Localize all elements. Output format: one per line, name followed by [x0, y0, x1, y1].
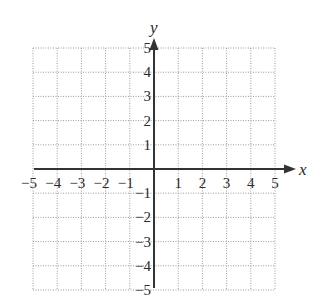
- y-tick-label: 2: [144, 113, 152, 129]
- y-tick-label: −4: [135, 258, 151, 274]
- x-tick-label: −2: [94, 175, 110, 191]
- x-tick-label: 2: [199, 175, 207, 191]
- x-axis-arrow-icon: [284, 165, 296, 174]
- x-tick-label: −1: [118, 175, 134, 191]
- axes: [34, 38, 296, 288]
- y-tick-label: 4: [144, 64, 152, 80]
- x-tick-label: −5: [21, 175, 37, 191]
- y-tick-label: −5: [135, 282, 151, 298]
- x-tick-label: 5: [271, 175, 279, 191]
- y-tick-label: 1: [144, 137, 152, 153]
- x-tick-label: 1: [174, 175, 182, 191]
- x-tick-label: 3: [223, 175, 231, 191]
- y-tick-label: 5: [144, 40, 152, 56]
- x-tick-label: 4: [247, 175, 255, 191]
- y-tick-label: −1: [135, 185, 151, 201]
- y-tick-label: −2: [135, 209, 151, 225]
- x-tick-label: −3: [69, 175, 85, 191]
- y-tick-label: 3: [144, 88, 152, 104]
- y-tick-label: −3: [135, 234, 151, 250]
- coordinate-plane: −5−4−3−2−112345 54321−1−2−3−4−5 x y: [0, 0, 323, 304]
- y-axis-label: y: [148, 18, 158, 37]
- x-tick-label: −4: [45, 175, 61, 191]
- x-axis-label: x: [298, 160, 307, 179]
